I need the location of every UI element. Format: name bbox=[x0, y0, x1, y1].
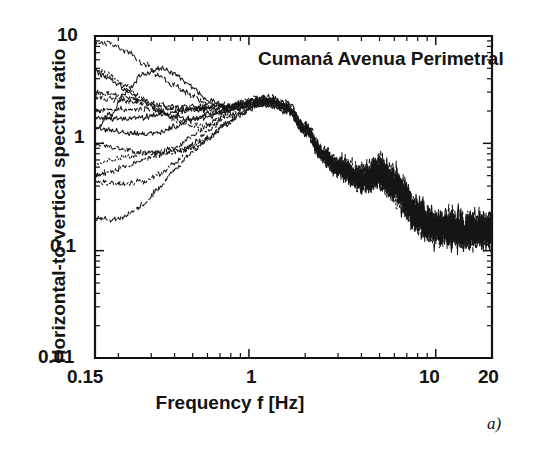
y-axis-title: Horizontal-to-vertical spectral ratio bbox=[48, 31, 70, 381]
x-tick-label-1: 1 bbox=[246, 366, 256, 388]
hv-spectral-ratio-figure: 10 1 0.1 0.01 0.15 1 10 20 Frequency f [… bbox=[0, 0, 535, 461]
spectral-ratio-curves bbox=[95, 40, 492, 254]
x-tick-label-10: 10 bbox=[419, 366, 440, 388]
x-tick-label-0.15: 0.15 bbox=[67, 366, 103, 388]
x-tick-label-20: 20 bbox=[478, 366, 499, 388]
site-annotation: Cumaná Avenua Perimetral bbox=[258, 48, 504, 70]
x-axis-title: Frequency f [Hz] bbox=[0, 392, 460, 414]
panel-caption: a) bbox=[487, 414, 501, 434]
axis-ticks bbox=[95, 36, 492, 358]
axes-frame bbox=[95, 36, 492, 358]
y-tick-label-1: 1 bbox=[74, 126, 84, 148]
